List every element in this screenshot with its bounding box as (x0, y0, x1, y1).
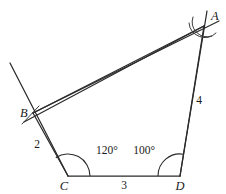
vertex-label-d: D (174, 179, 184, 193)
angle-arc-group (56, 154, 184, 176)
angle-label-c: 120° (96, 144, 118, 156)
angle-label-d: 100° (133, 144, 155, 156)
angle-arc-d (158, 154, 184, 176)
vertex-label-group: A B C D (20, 9, 219, 193)
vertex-label-b: B (20, 106, 28, 120)
vertex-label-a: A (210, 9, 219, 23)
side-label-cd: 3 (121, 179, 127, 191)
vertex-label-c: C (60, 179, 69, 193)
geometry-canvas: A B C D 2 3 4 120° 100° (0, 0, 226, 194)
side-label-ad: 4 (196, 94, 202, 106)
geometry-figure: A B C D 2 3 4 120° 100° (0, 0, 226, 194)
angle-arc-c (56, 154, 90, 176)
extension-line-cb-beyond-b (10, 63, 68, 176)
side-label-bc: 2 (34, 138, 40, 150)
side-ab (33, 26, 204, 113)
angle-label-group: 120° 100° (96, 144, 155, 156)
